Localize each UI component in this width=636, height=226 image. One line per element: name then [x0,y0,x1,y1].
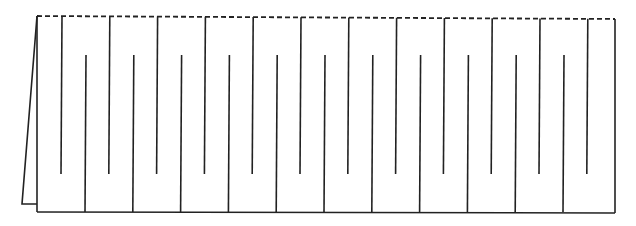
rising-finger [420,55,421,212]
hanging-finger [396,18,397,174]
rising-finger [467,55,468,212]
rising-finger [181,55,182,212]
hanging-finger [157,17,158,175]
frame-bottom-edge [37,212,615,213]
hanging-finger [109,16,110,174]
hanging-finger [61,16,62,174]
rising-finger [563,55,564,212]
rising-finger [133,55,134,212]
hanging-finger [348,18,349,175]
fingers-group [61,16,588,212]
rising-finger [515,55,516,212]
hanging-finger [587,19,588,174]
rising-finger [85,55,86,212]
hanging-finger [443,18,444,174]
left-flap [22,16,37,204]
meander-diagram [0,0,636,226]
hanging-finger [252,17,253,174]
rising-finger [276,55,277,212]
hanging-finger [539,19,540,175]
hanging-finger [204,17,205,174]
rising-finger [228,55,229,212]
dashed-top-edge [37,16,615,19]
rising-finger [372,55,373,212]
hanging-finger [491,18,492,174]
hanging-finger [300,17,301,174]
rising-finger [324,55,325,212]
